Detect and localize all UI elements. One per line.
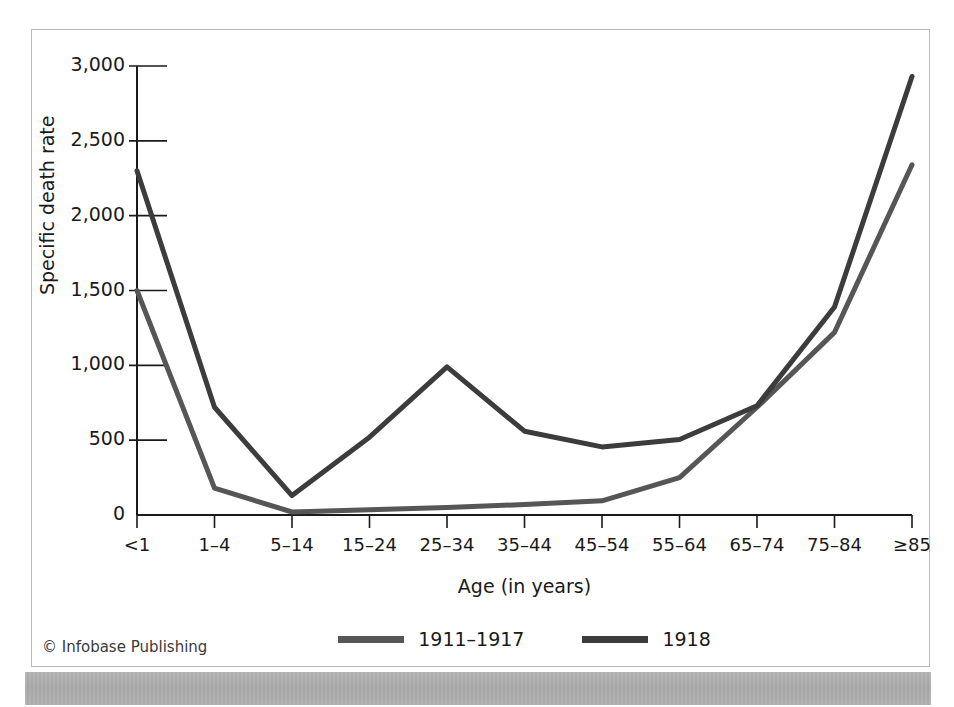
y-axis-tick-label: 3,000: [40, 53, 125, 75]
plot-canvas: [0, 0, 954, 707]
x-axis-tick-label: 55–64: [652, 534, 707, 555]
x-axis-tick-label: 65–74: [730, 534, 785, 555]
x-axis-tick-label: ≥85: [893, 534, 931, 555]
legend-item: 1911–1917: [338, 628, 524, 650]
x-axis-tick-label: <1: [124, 534, 151, 555]
legend-item: 1918: [582, 628, 710, 650]
x-axis-tick-label: 15–24: [342, 534, 397, 555]
legend-swatch-1911-1917: [338, 636, 404, 643]
series-line-1918: [137, 76, 912, 495]
x-axis-tick-label: 45–54: [575, 534, 630, 555]
x-axis-tick-label: 1–4: [199, 534, 231, 555]
data-series-group: [137, 76, 912, 512]
y-axis-tick-label: 500: [40, 427, 125, 449]
y-axis-tick-label: 0: [40, 502, 125, 524]
x-axis-tick-label: 35–44: [497, 534, 552, 555]
figure-page: 05001,0001,5002,0002,5003,000 <11–45–141…: [0, 0, 954, 707]
series-line-1911-1917: [137, 165, 912, 512]
y-axis-tick-label: 1,000: [40, 352, 125, 374]
legend-label: 1911–1917: [418, 628, 524, 650]
scan-artifact-band: [25, 672, 931, 705]
legend-label: 1918: [662, 628, 710, 650]
legend-swatch-1918: [582, 636, 648, 643]
x-axis-tick-label: 25–34: [420, 534, 475, 555]
line-chart: 05001,0001,5002,0002,5003,000 <11–45–141…: [0, 0, 954, 707]
x-axis-ticks: [137, 515, 912, 528]
chart-legend: 1911–19171918: [137, 628, 912, 650]
x-axis-tick-label: 75–84: [807, 534, 862, 555]
x-axis-title: Age (in years): [137, 575, 912, 597]
x-axis-tick-label: 5–14: [270, 534, 313, 555]
y-axis-title: Specific death rate: [36, 115, 58, 295]
publisher-credit: © Infobase Publishing: [42, 638, 207, 656]
